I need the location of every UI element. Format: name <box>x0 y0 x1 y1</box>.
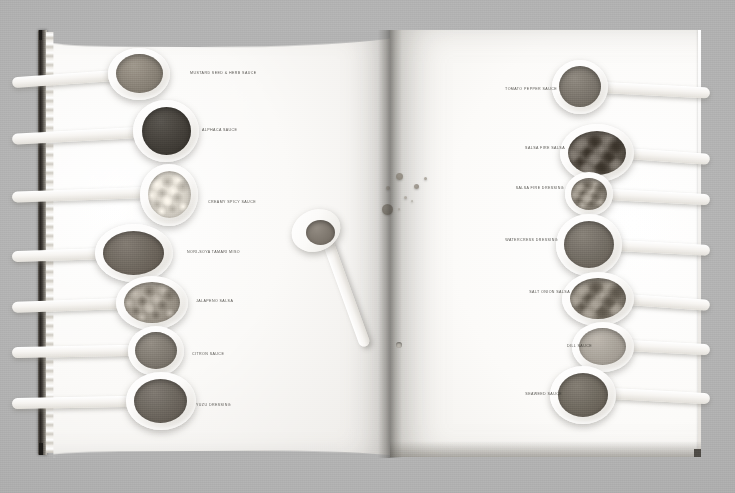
center-spoon <box>284 205 414 355</box>
right-page-corner <box>694 449 701 457</box>
photograph-canvas: MUSTARD SEED & HERB SAUCEALPHACA SAUCECR… <box>0 0 735 493</box>
left-page-bottom-curl <box>53 450 390 458</box>
right-page-bottom-shadow <box>390 441 701 457</box>
sauce-droplet <box>411 200 413 202</box>
sauce-droplet <box>386 186 390 190</box>
center-spoon-sauce <box>306 220 335 245</box>
center-spoon-handle-hole <box>396 342 402 348</box>
left-page-top-curl <box>53 30 390 48</box>
sauce-droplet <box>414 184 419 189</box>
sauce-droplet <box>424 177 427 180</box>
right-page <box>390 30 701 457</box>
sauce-droplet <box>396 173 403 180</box>
right-page-edge <box>698 30 701 457</box>
center-spoon-handle <box>322 239 371 348</box>
sauce-droplet <box>404 196 407 199</box>
